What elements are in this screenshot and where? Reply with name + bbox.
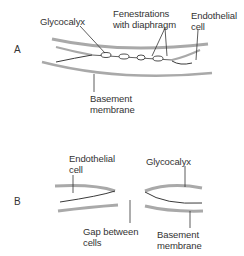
gap-label-line1: Gap between — [83, 226, 138, 237]
endothelial-label-b-line1: Endothelial — [69, 153, 115, 164]
fenestration — [153, 56, 163, 61]
fenestrations-label-line1: Fenestrations — [113, 8, 169, 19]
panel-a-drawing — [42, 26, 212, 92]
basement-label-b-line2: membrane — [157, 240, 202, 251]
panel-b-label: B — [14, 196, 21, 207]
basement-label-b-line1: Basement — [157, 229, 199, 240]
capillary-diagram — [0, 0, 244, 256]
fenestration — [137, 55, 145, 60]
glycocalyx-a — [52, 39, 208, 48]
endothelial-label-b-line2: cell — [69, 164, 83, 175]
basement-label-a-line1: Basement — [90, 93, 132, 104]
glycocalyx-label-b: Glycocalyx — [146, 156, 191, 167]
fenestrations-label-line2: with diaphragm — [113, 19, 176, 30]
panel-a-label: A — [14, 44, 21, 55]
fenestration — [119, 54, 129, 59]
glycocalyx-label-a: Glycocalyx — [40, 16, 85, 27]
basement-label-a-line2: membrane — [90, 104, 135, 115]
endothelial-label-a-line1: Endothelial — [191, 10, 237, 21]
panel-b-drawing — [55, 166, 203, 228]
gap-label-line2: cells — [83, 237, 102, 248]
endothelial-label-a-line2: cell — [191, 21, 205, 32]
fenestration — [101, 53, 111, 58]
